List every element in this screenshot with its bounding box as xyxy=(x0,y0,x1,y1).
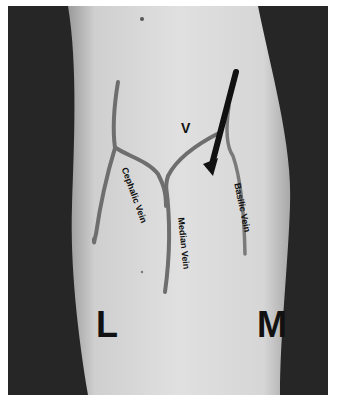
medial-label: M xyxy=(257,304,287,346)
forearm-photo: V Cephalic Vein Median Vein Basilic Vein… xyxy=(8,6,328,395)
lateral-label: L xyxy=(96,304,118,346)
v-mark-label: V xyxy=(181,120,190,136)
